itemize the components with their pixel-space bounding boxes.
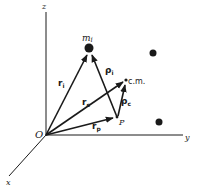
origin-label: O — [35, 129, 43, 140]
particle-m-i-dot — [85, 44, 94, 53]
label-rho-c: ρc — [121, 96, 131, 107]
label-r-i: ri — [58, 78, 65, 89]
particle-dot-lower-right — [156, 119, 163, 126]
label-r-c: rc — [82, 97, 90, 108]
p-label: P — [118, 118, 125, 127]
p-point — [116, 116, 119, 119]
y-axis-label: y — [184, 133, 190, 142]
vector-r-c — [46, 82, 123, 135]
z-axis-label: z — [41, 2, 47, 11]
particle-label: mi — [82, 33, 93, 44]
vector-r-i — [46, 55, 87, 135]
x-axis — [9, 135, 46, 176]
label-rho-i: ρi — [105, 65, 114, 76]
cm-label: c.m. — [128, 77, 145, 86]
vector-r-p — [46, 118, 113, 135]
x-axis-label: x — [6, 178, 11, 187]
particle-dot-upper-right — [150, 50, 157, 57]
com-diagram: z y x O mi c.m. P ri rc rp ρi ρc — [0, 0, 208, 189]
